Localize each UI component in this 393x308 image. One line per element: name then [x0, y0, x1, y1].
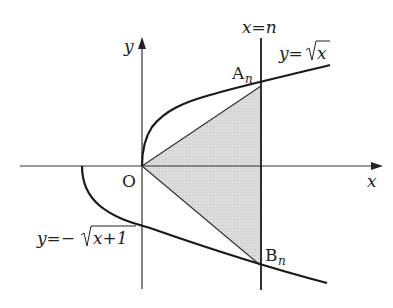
- point-a-n-label: A n: [231, 63, 253, 86]
- svg-text:y=−: y=−: [36, 228, 75, 248]
- shaded-triangle: [142, 86, 261, 265]
- graph-diagram: y x O x=n y= x y=− x+1 A n B n: [0, 0, 393, 308]
- svg-text:n: n: [278, 254, 286, 268]
- origin-label: O: [122, 171, 136, 191]
- lower-curve-label: y=− x+1: [36, 226, 136, 248]
- vertical-line-label: x=n: [242, 17, 277, 37]
- x-axis-label: x: [367, 171, 377, 191]
- upper-curve-label: y= x: [278, 41, 330, 63]
- svg-text:x+1: x+1: [93, 228, 128, 248]
- svg-text:A: A: [231, 63, 245, 83]
- y-axis-arrow-icon: [138, 37, 146, 49]
- svg-text:y=: y=: [278, 43, 303, 63]
- point-b-n-label: B n: [265, 245, 286, 268]
- y-axis-label: y: [123, 36, 134, 56]
- svg-text:n: n: [245, 72, 253, 86]
- x-axis-arrow-icon: [371, 162, 383, 170]
- svg-text:B: B: [265, 245, 278, 265]
- svg-text:x: x: [317, 43, 327, 63]
